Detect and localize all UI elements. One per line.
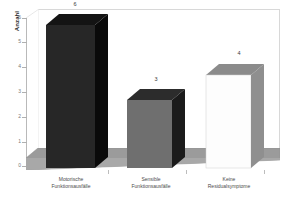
category-label-keine-line2: Residualsymptome xyxy=(190,183,268,190)
category-label-sensible: Sensible Funktionsausfälle xyxy=(112,176,190,189)
y-tick-3 xyxy=(22,92,27,93)
bar-value-label-3: 4 xyxy=(229,50,249,56)
bar-sensible-funktionsausfaelle[interactable] xyxy=(127,89,185,168)
y-tick-label-0: 0 xyxy=(12,163,21,168)
bar-chart-3d: Anzahl 6 5 4 3 2 1 0 xyxy=(0,0,290,197)
x-tick-3 xyxy=(264,170,265,174)
bar-motorische-funktionsausfaelle[interactable] xyxy=(46,14,108,168)
bar-keine-residualsymptome[interactable] xyxy=(206,64,264,168)
category-label-motorische-line1: Motorische xyxy=(59,176,83,182)
y-tick-label-3: 3 xyxy=(12,89,21,94)
x-tick-1 xyxy=(108,170,109,174)
y-tick-label-4: 4 xyxy=(12,64,21,69)
y-tick-label-1: 1 xyxy=(12,139,21,144)
bar-value-label-1: 6 xyxy=(65,1,85,7)
category-label-motorische-line2: Funktionsausfälle xyxy=(32,183,110,190)
chart-left-wall xyxy=(26,9,39,167)
y-tick-6 xyxy=(22,18,27,19)
category-label-motorische: Motorische Funktionsausfälle xyxy=(32,176,110,189)
category-label-keine-residualsymptome: Keine Residualsymptome xyxy=(190,176,268,189)
y-tick-label-6: 6 xyxy=(12,15,21,20)
y-tick-4 xyxy=(22,67,27,68)
y-tick-label-2: 2 xyxy=(12,114,21,119)
y-tick-2 xyxy=(22,117,27,118)
x-tick-2 xyxy=(186,170,187,174)
y-tick-1 xyxy=(22,142,27,143)
y-tick-5 xyxy=(22,42,27,43)
bar-value-label-2: 3 xyxy=(146,76,166,82)
category-label-sensible-line2: Funktionsausfälle xyxy=(112,183,190,190)
category-label-keine-line1: Keine xyxy=(223,176,236,182)
category-label-sensible-line1: Sensible xyxy=(141,176,160,182)
y-tick-label-5: 5 xyxy=(12,39,21,44)
